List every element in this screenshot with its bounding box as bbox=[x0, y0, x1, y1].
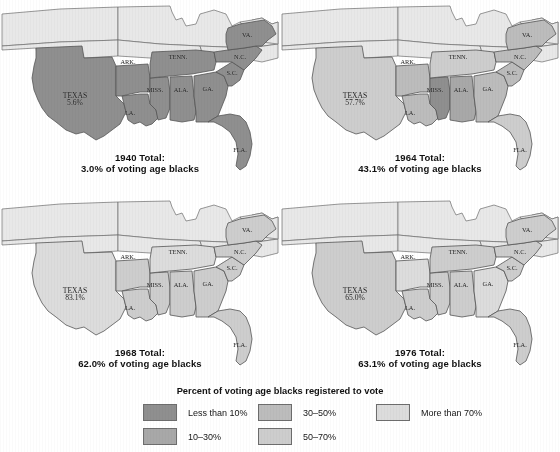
state-label-va: VA. bbox=[522, 32, 532, 39]
state-label-la: LA. bbox=[405, 305, 415, 312]
state-name: LA. bbox=[405, 110, 415, 117]
panel-title-total: 62.0% of voting age blacks bbox=[0, 358, 280, 369]
state-name: MISS. bbox=[147, 282, 164, 289]
panel-title-year: 1940 Total: bbox=[0, 152, 280, 163]
state-label-texas: TEXAS65.0% bbox=[343, 288, 367, 302]
state-label-ala: ALA. bbox=[174, 87, 189, 94]
state-name: S.C. bbox=[506, 265, 517, 272]
panel-title-year: 1968 Total: bbox=[0, 347, 280, 358]
non-data-region-0 bbox=[2, 7, 118, 46]
panel-title-year: 1964 Total: bbox=[280, 152, 560, 163]
legend-label-p10_30: 10–30% bbox=[188, 432, 221, 442]
map-panel-1968: TEXAS83.1%ARK.LA.MISS.ALA.TENN.GA.FLA.S.… bbox=[0, 195, 280, 390]
state-name: S.C. bbox=[226, 265, 237, 272]
state-shape-ga bbox=[194, 72, 228, 122]
legend-swatch-p50_70 bbox=[258, 428, 292, 445]
state-shape-ark bbox=[116, 64, 150, 96]
state-label-ga: GA. bbox=[203, 86, 214, 93]
state-label-ala: ALA. bbox=[454, 282, 469, 289]
state-label-tenn: TENN. bbox=[169, 54, 188, 61]
panel-title-1976: 1976 Total:63.1% of voting age blacks bbox=[280, 347, 560, 369]
state-label-va: VA. bbox=[242, 227, 252, 234]
state-name: MISS. bbox=[427, 282, 444, 289]
non-data-region-0 bbox=[2, 202, 118, 241]
state-label-sc: S.C. bbox=[506, 265, 517, 272]
state-name: N.C. bbox=[234, 54, 246, 61]
state-label-miss: MISS. bbox=[427, 87, 444, 94]
state-label-sc: S.C. bbox=[226, 70, 237, 77]
state-shape-ga bbox=[474, 267, 508, 317]
state-label-ark: ARK. bbox=[400, 59, 415, 66]
legend-label-lt10: Less than 10% bbox=[188, 408, 248, 418]
state-name: VA. bbox=[522, 227, 532, 234]
state-label-miss: MISS. bbox=[427, 282, 444, 289]
state-shape-ala bbox=[450, 271, 476, 317]
state-label-la: LA. bbox=[405, 110, 415, 117]
state-label-ala: ALA. bbox=[454, 87, 469, 94]
state-name: ALA. bbox=[454, 282, 469, 289]
state-name: ALA. bbox=[174, 87, 189, 94]
panel-title-1964: 1964 Total:43.1% of voting age blacks bbox=[280, 152, 560, 174]
state-name: N.C. bbox=[234, 249, 246, 256]
state-value: 65.0% bbox=[343, 295, 367, 302]
non-data-region-0 bbox=[282, 202, 398, 241]
panel-title-total: 63.1% of voting age blacks bbox=[280, 358, 560, 369]
state-label-va: VA. bbox=[522, 227, 532, 234]
state-name: MISS. bbox=[147, 87, 164, 94]
state-name: VA. bbox=[242, 32, 252, 39]
state-name: LA. bbox=[125, 305, 135, 312]
state-name: TENN. bbox=[449, 249, 468, 256]
legend-item-p30_50: 30–50% bbox=[258, 404, 336, 421]
state-shape-ala bbox=[170, 271, 196, 317]
state-name: VA. bbox=[522, 32, 532, 39]
state-name: N.C. bbox=[514, 54, 526, 61]
state-label-ark: ARK. bbox=[400, 254, 415, 261]
state-shape-ark bbox=[396, 64, 430, 96]
state-name: ARK. bbox=[120, 254, 135, 261]
state-label-tenn: TENN. bbox=[169, 249, 188, 256]
panel-title-total: 43.1% of voting age blacks bbox=[280, 163, 560, 174]
map-panel-1940: TEXAS5.6%ARK.LA.MISS.ALA.TENN.GA.FLA.S.C… bbox=[0, 0, 280, 195]
state-name: ALA. bbox=[174, 282, 189, 289]
state-label-sc: S.C. bbox=[226, 265, 237, 272]
state-label-ala: ALA. bbox=[174, 282, 189, 289]
state-name: ARK. bbox=[400, 59, 415, 66]
map-panel-1964: TEXAS57.7%ARK.LA.MISS.ALA.TENN.GA.FLA.S.… bbox=[280, 0, 560, 195]
legend-label-gt70: More than 70% bbox=[421, 408, 482, 418]
legend-item-p50_70: 50–70% bbox=[258, 428, 336, 445]
state-name: ARK. bbox=[400, 254, 415, 261]
state-name: GA. bbox=[483, 281, 494, 288]
state-name: GA. bbox=[483, 86, 494, 93]
state-label-nc: N.C. bbox=[234, 249, 246, 256]
state-label-tenn: TENN. bbox=[449, 54, 468, 61]
state-shape-ark bbox=[396, 259, 430, 291]
state-label-ga: GA. bbox=[483, 86, 494, 93]
state-name: ARK. bbox=[120, 59, 135, 66]
state-label-nc: N.C. bbox=[234, 54, 246, 61]
state-label-miss: MISS. bbox=[147, 87, 164, 94]
non-data-region-0 bbox=[282, 7, 398, 46]
legend-swatch-p30_50 bbox=[258, 404, 292, 421]
state-label-texas: TEXAS5.6% bbox=[63, 93, 87, 107]
legend-row-bottom: 10–30%50–70% bbox=[143, 427, 560, 446]
state-label-ga: GA. bbox=[203, 281, 214, 288]
state-name: TENN. bbox=[169, 249, 188, 256]
state-label-la: LA. bbox=[125, 305, 135, 312]
state-name: MISS. bbox=[427, 87, 444, 94]
state-label-texas: TEXAS57.7% bbox=[343, 93, 367, 107]
state-shape-ala bbox=[170, 76, 196, 122]
state-label-sc: S.C. bbox=[506, 70, 517, 77]
state-shape-ark bbox=[116, 259, 150, 291]
panel-title-year: 1976 Total: bbox=[280, 347, 560, 358]
legend-item-gt70: More than 70% bbox=[376, 404, 482, 421]
legend-row-top: Less than 10%30–50%More than 70% bbox=[143, 403, 560, 422]
panel-title-total: 3.0% of voting age blacks bbox=[0, 163, 280, 174]
state-name: S.C. bbox=[226, 70, 237, 77]
state-name: GA. bbox=[203, 281, 214, 288]
legend-swatch-p10_30 bbox=[143, 428, 177, 445]
state-label-la: LA. bbox=[125, 110, 135, 117]
legend-item-lt10: Less than 10% bbox=[143, 404, 248, 421]
state-label-ark: ARK. bbox=[120, 59, 135, 66]
legend-title: Percent of voting age blacks registered … bbox=[0, 386, 560, 396]
state-name: ALA. bbox=[454, 87, 469, 94]
